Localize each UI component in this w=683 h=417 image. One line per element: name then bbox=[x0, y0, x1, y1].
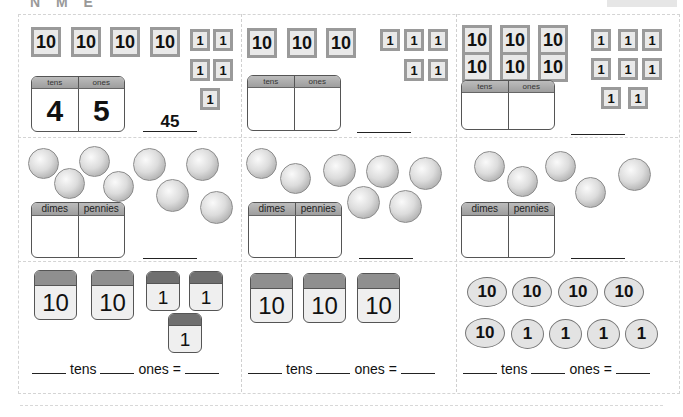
ones-tile: 1 bbox=[404, 29, 424, 51]
penny-maple-coin bbox=[156, 179, 189, 212]
tens-value[interactable]: 4 bbox=[32, 89, 79, 132]
tens-blank[interactable] bbox=[248, 361, 282, 374]
pennies-header: pennies bbox=[79, 203, 125, 215]
dimes-header: dimes bbox=[32, 203, 79, 215]
ten-counter: 10 bbox=[465, 318, 505, 348]
tens-tile: 10 bbox=[500, 25, 530, 55]
tens-tile: 10 bbox=[500, 52, 530, 82]
penny-queen-coin bbox=[200, 191, 233, 224]
ones-tile: 1 bbox=[190, 59, 210, 81]
penny-queen-coin bbox=[389, 190, 422, 223]
equals-sign: = bbox=[173, 361, 181, 377]
penny-maple-coin bbox=[366, 155, 399, 188]
ones-tile: 1 bbox=[428, 59, 448, 81]
tens-ones-table: tensones bbox=[247, 75, 341, 131]
ones-value[interactable]: 5 bbox=[79, 89, 125, 132]
pennies-value[interactable] bbox=[509, 216, 555, 258]
one-block: 1 bbox=[168, 313, 202, 353]
tens-ones-equation: tens ones = bbox=[463, 361, 650, 377]
ones-label: ones bbox=[569, 361, 599, 377]
pennies-header: pennies bbox=[509, 203, 555, 215]
pennies-value[interactable] bbox=[79, 216, 125, 258]
ten-counter: 10 bbox=[512, 277, 552, 307]
tens-ones-table: tensones bbox=[461, 80, 555, 130]
answer-blank[interactable] bbox=[359, 240, 413, 259]
one-counter: 1 bbox=[549, 319, 582, 349]
one-block: 1 bbox=[189, 271, 223, 311]
worksheet-heading: N M E bbox=[30, 0, 99, 10]
ones-tile: 1 bbox=[200, 88, 220, 110]
tens-tile: 10 bbox=[462, 52, 492, 82]
answer-blank[interactable] bbox=[143, 240, 197, 259]
page-tab bbox=[607, 0, 677, 7]
tens-header: tens bbox=[462, 81, 509, 92]
ten-block: 10 bbox=[357, 273, 400, 323]
tens-value[interactable] bbox=[248, 88, 295, 131]
ten-block: 10 bbox=[250, 273, 293, 323]
dime-queen-coin bbox=[28, 148, 59, 179]
dimes-header: dimes bbox=[462, 203, 509, 215]
ones-label: ones bbox=[138, 361, 168, 377]
tens-value[interactable] bbox=[462, 93, 509, 130]
dime-queen-coin bbox=[545, 151, 576, 182]
total-blank[interactable] bbox=[185, 361, 219, 374]
dime-boat-coin bbox=[280, 163, 311, 194]
ten-block: 10 bbox=[91, 270, 134, 320]
ones-blank[interactable] bbox=[531, 361, 565, 374]
dimes-value[interactable] bbox=[249, 216, 296, 258]
tens-label: tens bbox=[286, 361, 312, 377]
answer-blank[interactable] bbox=[571, 116, 625, 135]
dimes-header: dimes bbox=[249, 203, 296, 215]
column-divider bbox=[456, 14, 457, 392]
ones-tile: 1 bbox=[428, 29, 448, 51]
ones-tile: 1 bbox=[601, 87, 621, 109]
tens-tile: 10 bbox=[247, 28, 277, 58]
pennies-header: pennies bbox=[296, 203, 342, 215]
ones-tile: 1 bbox=[213, 29, 233, 51]
ones-label: ones bbox=[354, 361, 384, 377]
total-blank[interactable] bbox=[401, 361, 435, 374]
ones-blank[interactable] bbox=[316, 361, 350, 374]
dimes-value[interactable] bbox=[462, 216, 509, 258]
one-block: 1 bbox=[146, 271, 180, 311]
ones-value[interactable] bbox=[295, 88, 341, 131]
dime-boat-coin bbox=[79, 146, 110, 177]
dime-queen-coin bbox=[103, 171, 134, 202]
ones-tile: 1 bbox=[642, 29, 662, 51]
tens-tile: 10 bbox=[150, 27, 180, 57]
dimes-pennies-table: dimespennies bbox=[31, 202, 125, 258]
dime-boat-coin bbox=[54, 168, 85, 199]
total-blank[interactable] bbox=[616, 361, 650, 374]
answer-blank[interactable] bbox=[357, 114, 411, 133]
tens-blank[interactable] bbox=[32, 361, 66, 374]
column-divider bbox=[241, 14, 242, 392]
answer-blank[interactable]: 45 bbox=[143, 113, 197, 132]
tens-ones-equation: tens ones = bbox=[32, 361, 219, 377]
ten-block: 10 bbox=[303, 273, 346, 323]
tens-blank[interactable] bbox=[463, 361, 497, 374]
tens-tile: 10 bbox=[538, 52, 568, 82]
page-bottom-rule bbox=[20, 405, 663, 406]
ten-counter: 10 bbox=[604, 277, 644, 307]
dimes-value[interactable] bbox=[32, 216, 79, 258]
dime-queen-coin bbox=[246, 148, 277, 179]
ones-tile: 1 bbox=[591, 29, 611, 51]
ten-block: 10 bbox=[34, 270, 77, 320]
tens-tile: 10 bbox=[31, 27, 61, 57]
tens-header: tens bbox=[32, 77, 79, 88]
one-counter: 1 bbox=[511, 319, 544, 349]
penny-queen-coin bbox=[323, 154, 356, 187]
pennies-value[interactable] bbox=[296, 216, 342, 258]
ones-value[interactable] bbox=[509, 93, 555, 130]
ones-tile: 1 bbox=[213, 59, 233, 81]
ones-blank[interactable] bbox=[100, 361, 134, 374]
answer-blank[interactable] bbox=[571, 240, 625, 259]
ones-tile: 1 bbox=[618, 58, 638, 80]
ten-counter: 10 bbox=[467, 277, 507, 307]
tens-label: tens bbox=[501, 361, 527, 377]
tens-ones-equation: tens ones = bbox=[248, 361, 435, 377]
penny-maple-coin bbox=[618, 158, 651, 191]
row-divider bbox=[18, 137, 678, 138]
one-counter: 1 bbox=[625, 319, 658, 349]
tens-ones-table: tensones 45 bbox=[31, 76, 125, 132]
